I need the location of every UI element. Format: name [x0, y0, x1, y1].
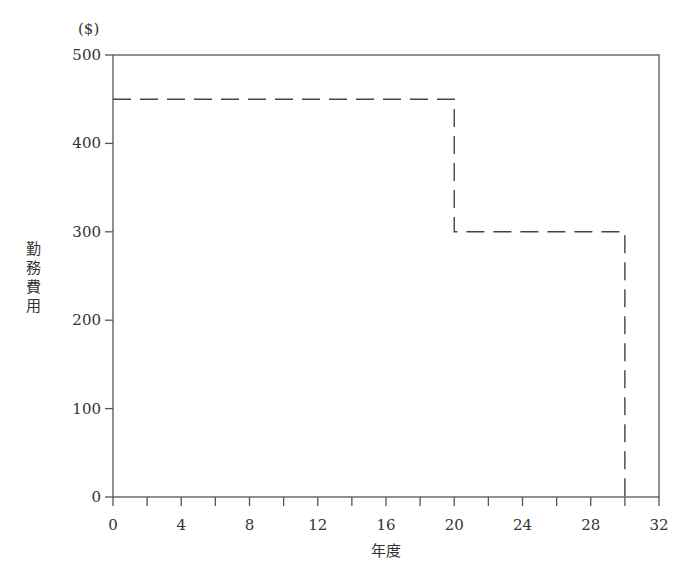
y-tick-label: 400	[72, 134, 101, 152]
x-tick-label: 12	[308, 516, 327, 534]
y-tick-label: 200	[72, 311, 101, 329]
y-unit-label: ($)	[78, 20, 99, 38]
y-tick-label: 100	[72, 400, 101, 418]
x-tick-label: 32	[649, 516, 668, 534]
x-tick-label: 4	[176, 516, 186, 534]
x-tick-label: 0	[108, 516, 118, 534]
y-axis-label-char: 用	[26, 297, 41, 315]
y-tick-label: 0	[91, 488, 101, 506]
x-tick-label: 8	[245, 516, 255, 534]
x-axis-label: 年度	[371, 542, 401, 560]
y-axis-label-char: 勤	[26, 240, 41, 258]
x-axis: 048121620242832	[108, 497, 668, 534]
x-tick-label: 28	[581, 516, 600, 534]
y-tick-label: 500	[72, 46, 101, 64]
y-tick-label: 300	[72, 223, 101, 241]
x-tick-label: 16	[376, 516, 395, 534]
y-axis-label: 勤務費用	[26, 240, 41, 315]
x-tick-label: 24	[513, 516, 532, 534]
step-line	[113, 99, 625, 497]
y-axis-label-char: 費	[26, 278, 41, 296]
x-tick-label: 20	[445, 516, 464, 534]
y-axis: 0100200300400500	[72, 46, 113, 506]
step-chart: 0100200300400500 048121620242832 ($) 年度 …	[0, 0, 692, 581]
data-series	[113, 99, 625, 497]
plot-border	[113, 55, 659, 497]
y-axis-label-char: 務	[26, 259, 41, 277]
plot-frame	[113, 55, 659, 497]
